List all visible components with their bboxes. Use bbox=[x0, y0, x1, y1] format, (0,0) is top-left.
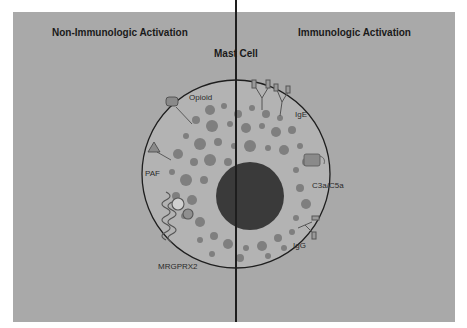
igg-label: IgG bbox=[293, 241, 306, 250]
immunologic-header: Immunologic Activation bbox=[298, 27, 411, 38]
mast-cell-title: Mast Cell bbox=[214, 48, 258, 59]
ige-label: IgE bbox=[295, 110, 307, 119]
opioid-label: Opioid bbox=[189, 93, 212, 102]
c3a-c5a-label: C3a/C5a bbox=[312, 181, 344, 190]
paf-label: PAF bbox=[145, 169, 160, 178]
nucleus bbox=[216, 162, 284, 230]
non-immunologic-header: Non-Immunologic Activation bbox=[52, 27, 188, 38]
mrgprx2-label: MRGPRX2 bbox=[158, 262, 198, 271]
